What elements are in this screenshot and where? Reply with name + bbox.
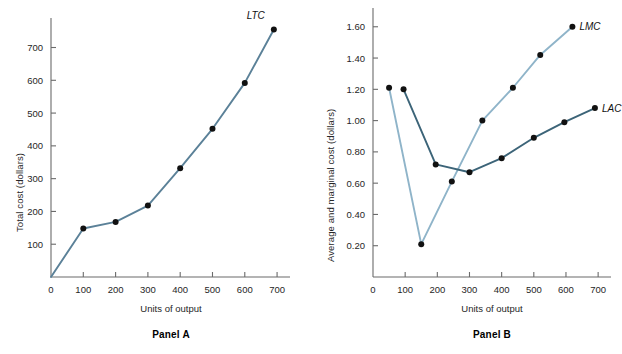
x-tick-label: 300 — [462, 284, 478, 295]
y-tick-label: 0.40 — [347, 209, 366, 220]
panel-b-series — [386, 24, 598, 247]
y-tick-label: 200 — [27, 206, 43, 217]
panel-b-curve-label-lac: LAC — [602, 103, 622, 114]
x-tick-label: 200 — [108, 284, 124, 295]
x-tick-label: 100 — [397, 284, 413, 295]
panel-b-x-axis-title: Units of output — [373, 303, 611, 314]
y-tick-label: 700 — [27, 42, 43, 53]
panel-b-caption: Panel B — [373, 329, 611, 340]
panel-b-y-tick-labels: 0.200.400.600.801.001.201.401.60 — [347, 21, 366, 251]
data-point — [177, 165, 183, 171]
data-point — [510, 85, 516, 91]
x-tick-label: 0 — [370, 284, 375, 295]
x-tick-label: 100 — [75, 284, 91, 295]
x-tick-label: 200 — [429, 284, 445, 295]
data-point — [466, 169, 472, 175]
data-point — [113, 219, 119, 225]
data-point — [242, 80, 248, 86]
panel-a-curve-label-ltc: LTC — [247, 10, 266, 21]
panel-a-y-tick-labels: 100200300400500600700 — [27, 42, 43, 250]
x-tick-label: 400 — [172, 284, 188, 295]
series-line-ltc — [51, 29, 274, 277]
data-point — [271, 26, 277, 32]
x-tick-label: 400 — [494, 284, 510, 295]
data-point — [499, 155, 505, 161]
y-tick-label: 1.00 — [347, 115, 366, 126]
data-point — [80, 225, 86, 231]
data-point — [479, 118, 485, 124]
x-tick-label: 600 — [237, 284, 253, 295]
data-point — [386, 85, 392, 91]
y-tick-label: 1.40 — [347, 53, 366, 64]
x-tick-label: 700 — [590, 284, 606, 295]
y-tick-label: 1.20 — [347, 84, 366, 95]
x-tick-label: 0 — [48, 284, 53, 295]
figure-container: Total cost (dollars) 1002003004005006007… — [0, 0, 622, 354]
panel-a-y-axis-title: Total cost (dollars) — [14, 153, 25, 232]
data-point — [209, 126, 215, 132]
y-tick-label: 100 — [27, 239, 43, 250]
data-point — [537, 52, 543, 58]
panel-b-plot: 0.200.400.600.801.001.201.401.60 0100200… — [311, 0, 622, 300]
data-point — [433, 161, 439, 167]
panel-b-curve-label-lmc: LMC — [579, 21, 601, 32]
panel-b-x-tick-labels: 0100200300400500600700 — [370, 284, 606, 295]
data-point — [531, 135, 537, 141]
panel-a-plot: 100200300400500600700 010020030040050060… — [0, 0, 311, 300]
x-tick-label: 700 — [269, 284, 285, 295]
y-tick-label: 0.20 — [347, 240, 366, 251]
panel-a-series — [51, 26, 277, 277]
data-point — [569, 24, 575, 30]
x-tick-label: 600 — [558, 284, 574, 295]
series-line-lmc — [389, 27, 572, 244]
panel-b: Average and marginal cost (dollars) 0.20… — [311, 0, 622, 354]
data-point — [592, 105, 598, 111]
y-tick-label: 1.60 — [347, 21, 366, 32]
data-point — [418, 241, 424, 247]
panel-b-y-axis-title: Average and marginal cost (dollars) — [325, 109, 336, 262]
y-tick-label: 600 — [27, 75, 43, 86]
data-point — [401, 86, 407, 92]
y-tick-label: 400 — [27, 140, 43, 151]
data-point — [145, 203, 151, 209]
y-tick-label: 500 — [27, 108, 43, 119]
y-tick-label: 0.60 — [347, 178, 366, 189]
x-tick-label: 500 — [205, 284, 221, 295]
x-tick-label: 300 — [140, 284, 156, 295]
data-point — [561, 119, 567, 125]
panel-a-caption: Panel A — [51, 329, 291, 340]
y-tick-label: 300 — [27, 173, 43, 184]
y-tick-label: 0.80 — [347, 146, 366, 157]
panel-b-ticks — [373, 27, 598, 277]
panel-a: Total cost (dollars) 1002003004005006007… — [0, 0, 311, 354]
panel-a-x-axis-title: Units of output — [51, 303, 291, 314]
panel-a-x-tick-labels: 0100200300400500600700 — [48, 284, 285, 295]
data-point — [449, 179, 455, 185]
x-tick-label: 500 — [526, 284, 542, 295]
